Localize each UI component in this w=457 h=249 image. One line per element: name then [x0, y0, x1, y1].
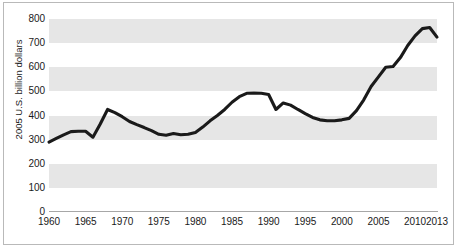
chart-figure: 2005 U.S. billion dollars 01002003004005… [0, 0, 457, 249]
data-line-series [49, 27, 437, 142]
data-line-layer [0, 0, 457, 249]
